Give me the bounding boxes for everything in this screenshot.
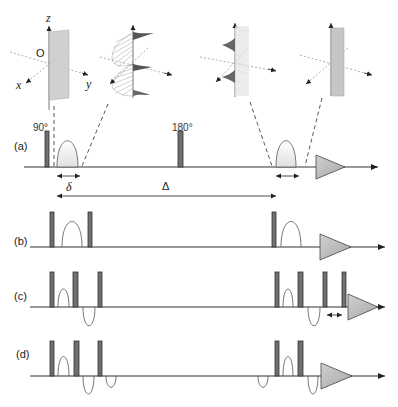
gradient-pulse-1: [57, 141, 78, 167]
pulse-5: [298, 341, 303, 376]
delta-label: δ: [66, 180, 72, 194]
pulse-2: [73, 272, 78, 307]
gradient-pulse-small-2: [258, 376, 268, 387]
pulse-5: [298, 272, 303, 307]
sequence-c-label: (c): [14, 290, 27, 302]
sequence-c: (c): [14, 272, 385, 326]
pulse-1: [50, 272, 54, 307]
pulse-1: [50, 341, 54, 376]
acquisition-fid: [320, 234, 351, 260]
pulse-90-2: [272, 212, 276, 247]
pulse-180: [88, 212, 92, 247]
gradient-pulse-small-1: [106, 376, 116, 387]
gradient-pulse-pos-2: [283, 289, 293, 307]
acquisition-fid: [321, 363, 352, 389]
gradient-pulse-2: [276, 141, 296, 167]
pulse-sequence-diagram: z O x y: [0, 0, 398, 407]
inset-helix-1: [100, 25, 172, 98]
gradient-pulse-neg-1: [83, 307, 95, 326]
pulse-90: [50, 212, 54, 247]
gradient-pulse-2: [281, 222, 301, 248]
inset-plane-2: [300, 23, 372, 96]
z-axis-label: z: [45, 11, 51, 25]
sequence-a: (a) 90° 180° δ Δ: [14, 122, 378, 196]
inset-helix-2: [200, 23, 276, 97]
pulse-6: [323, 272, 327, 307]
y-axis-label: y: [85, 77, 92, 91]
gradient-pulse-neg-1: [83, 376, 94, 394]
pulse-3: [98, 272, 102, 307]
pulse-3: [98, 341, 102, 376]
inset-plane-1: z O x y: [10, 11, 92, 110]
pulse-2: [74, 341, 79, 376]
origin-label: O: [36, 47, 45, 59]
pulse-7: [342, 272, 346, 307]
gradient-pulse-pos-1: [58, 289, 69, 307]
gradient-pulse-1: [62, 222, 82, 248]
gradient-pulse-neg-2: [308, 307, 320, 326]
acquisition-fid: [348, 294, 378, 320]
sequence-d: (d): [16, 341, 385, 394]
pulse-4: [275, 341, 279, 376]
gradient-pulse-neg-2: [308, 376, 318, 394]
pulse-180: [178, 131, 183, 167]
sequence-d-label: (d): [16, 348, 29, 360]
sequence-b-label: (b): [14, 235, 27, 247]
Delta-label: Δ: [162, 180, 170, 192]
sequence-a-label: (a): [14, 140, 27, 152]
magnetization-plane: [49, 30, 69, 100]
acquisition-fid: [316, 155, 345, 179]
pulse-4: [275, 272, 279, 307]
sequence-b: (b): [14, 212, 385, 260]
gradient-pulse-pos-2: [283, 357, 293, 377]
gradient-pulse-pos-1: [58, 357, 69, 377]
pulse-90: [45, 131, 49, 167]
x-axis-label: x: [15, 78, 22, 92]
